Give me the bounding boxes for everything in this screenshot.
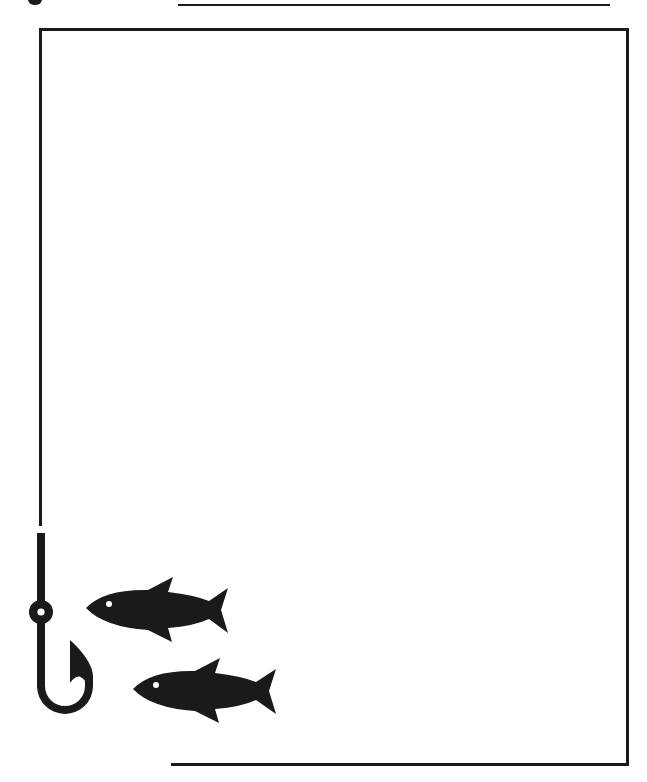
decoration-layer	[0, 0, 647, 782]
fish-hook-icon	[29, 533, 93, 714]
fish-icon	[133, 658, 276, 723]
fish-icon	[86, 577, 228, 642]
page-canvas	[0, 0, 647, 782]
